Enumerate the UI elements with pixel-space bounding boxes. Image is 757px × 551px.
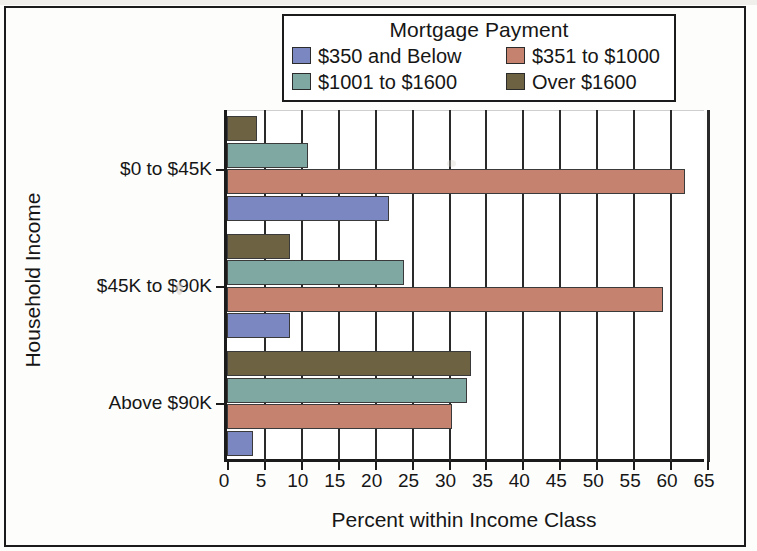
bar — [227, 378, 467, 403]
x-axis-tick-label: 40 — [509, 470, 530, 492]
x-axis-tick — [264, 461, 266, 470]
y-axis-tick — [216, 286, 227, 288]
legend-title: Mortgage Payment — [292, 19, 666, 42]
bar — [227, 313, 290, 338]
legend-item-label: $1001 to $1600 — [318, 72, 457, 92]
y-axis-tick — [216, 169, 227, 171]
legend-item-351-to-1000[interactable]: $351 to $1000 — [506, 46, 660, 66]
x-axis-tick-label: 20 — [361, 470, 382, 492]
x-axis-tick-label: 50 — [583, 470, 604, 492]
legend-swatch-icon — [506, 73, 525, 90]
x-axis-title: Percent within Income Class — [224, 508, 704, 532]
x-axis-tick-label: 65 — [693, 470, 714, 492]
x-axis-tick — [485, 461, 487, 470]
x-axis-tick-label: 35 — [472, 470, 493, 492]
legend-item-label: $351 to $1000 — [532, 46, 660, 66]
x-axis-tick-label: 45 — [546, 470, 567, 492]
x-axis-tick-label: 25 — [398, 470, 419, 492]
legend-entries: $350 and Below $351 to $1000 $1001 to $1… — [292, 43, 666, 95]
x-axis-tick — [301, 461, 303, 470]
legend: Mortgage Payment $350 and Below $351 to … — [282, 14, 676, 102]
bar — [227, 234, 290, 259]
legend-swatch-icon — [506, 47, 525, 64]
y-axis-category-label: Above $90K — [108, 392, 212, 414]
legend-item-label: Over $1600 — [532, 72, 637, 92]
bar — [227, 143, 308, 168]
bar — [227, 351, 471, 376]
x-axis-tick-label: 0 — [219, 470, 230, 492]
x-axis-tick — [559, 461, 561, 470]
chart-figure: Mortgage Payment $350 and Below $351 to … — [0, 0, 757, 551]
bar — [227, 260, 404, 285]
x-axis-tick — [375, 461, 377, 470]
bar — [227, 287, 663, 312]
x-axis-tick-label: 10 — [287, 470, 308, 492]
x-axis-tick — [227, 461, 229, 470]
gridline — [707, 110, 710, 462]
bar — [227, 404, 452, 429]
gridline — [670, 110, 672, 462]
x-axis-tick — [522, 461, 524, 470]
bar — [227, 169, 685, 194]
bar — [227, 116, 257, 141]
legend-item-350-and-below[interactable]: $350 and Below — [292, 46, 506, 66]
x-axis-tick — [338, 461, 340, 470]
legend-swatch-icon — [292, 73, 311, 90]
x-axis-tick — [707, 461, 709, 470]
x-axis-tick — [670, 461, 672, 470]
x-axis-tick-label: 5 — [256, 470, 267, 492]
x-axis-tick-label: 30 — [435, 470, 456, 492]
x-axis-tick-label: 60 — [656, 470, 677, 492]
plot-area — [224, 110, 704, 462]
y-axis-tick — [216, 403, 227, 405]
legend-item-over-1600[interactable]: Over $1600 — [506, 72, 637, 92]
y-axis-category-label: $45K to $90K — [97, 275, 212, 297]
x-axis-tick-label: 15 — [324, 470, 345, 492]
x-axis-tick-label: 55 — [620, 470, 641, 492]
legend-item-label: $350 and Below — [318, 46, 461, 66]
scan-smudge-artifact — [447, 160, 456, 167]
x-axis-tick — [449, 461, 451, 470]
bar — [227, 196, 389, 221]
bar — [227, 431, 253, 456]
x-axis-tick — [412, 461, 414, 470]
scan-edge-artifact — [0, 0, 757, 5]
legend-row: $350 and Below $351 to $1000 — [292, 43, 666, 69]
legend-swatch-icon — [292, 47, 311, 64]
scan-smudge-artifact — [176, 282, 183, 295]
legend-row: $1001 to $1600 Over $1600 — [292, 69, 666, 95]
x-axis-tick — [596, 461, 598, 470]
y-axis-title: Household Income — [21, 180, 45, 380]
x-axis-tick — [633, 461, 635, 470]
y-axis-category-label: $0 to $45K — [120, 158, 212, 180]
legend-item-1001-to-1600[interactable]: $1001 to $1600 — [292, 72, 506, 92]
